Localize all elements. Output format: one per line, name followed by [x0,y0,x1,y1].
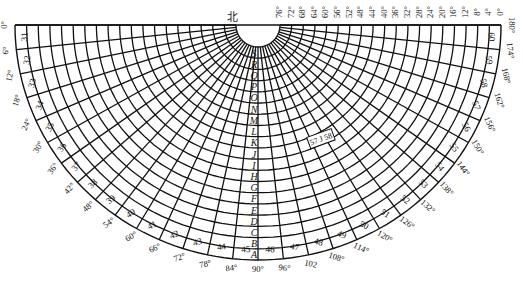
ring-letter-label: F [250,193,258,204]
latitude-label: 4° [483,8,493,16]
zone-number-label: 41 [146,219,159,232]
ring-letter-label: H [249,171,258,182]
longitude-label: 0° [0,21,9,29]
longitude-label: 84° [225,262,238,273]
latitude-label: 48° [355,6,365,18]
longitude-label: 96° [278,262,291,273]
zone-number-label: 50 [358,219,371,232]
latitude-label: 8° [472,8,482,16]
ring-letter-label: I [251,160,256,171]
latitude-label: 64° [309,6,319,18]
zone-number-label: 47 [289,241,300,252]
meridian-line [36,34,238,121]
ring-letter-label: D [249,216,258,227]
latitude-label: 20° [437,6,447,18]
zone-number-label: 55 [448,141,462,154]
ring-letter-label: K [250,137,259,148]
longitude-label: 90° [252,264,264,274]
latitude-label: 36° [390,6,400,18]
longitude-label: 66° [147,241,162,255]
longitude-label: 114° [352,240,371,256]
longitude-label: 126° [398,214,417,232]
latitude-label: 76° [274,6,284,18]
meridian-line [77,40,241,183]
grid-lines [15,25,501,260]
longitude-label: 102 [304,257,319,269]
zone-number-label: 59 [484,55,495,66]
latitude-label: 24° [425,6,435,18]
ring-letter-label: J [252,149,257,160]
zone-number-label: 42 [168,228,180,241]
latitude-label: 40° [379,6,389,18]
latitude-label: 44° [367,6,377,18]
longitude-label: 174° [505,42,517,59]
ring-letter-label: M [249,115,259,126]
ring-letter-label: N [250,104,259,115]
longitude-label: 60° [123,229,138,244]
longitude-label: 168° [500,67,513,85]
latitude-arc [236,25,280,47]
latitude-label: 16° [448,6,458,18]
longitude-label: 12° [3,69,15,83]
longitude-label: 72° [172,250,186,263]
latitude-label: 28° [414,6,424,18]
longitude-label: 18° [10,93,23,107]
zone-number-label: 43 [192,236,204,248]
ring-letter-label: L [250,126,257,137]
longitude-label: 150° [470,137,487,156]
meridian-line [273,41,421,199]
zone-number-label: 53 [417,177,431,191]
ring-letter-label: Q [250,70,258,81]
meridian-line [278,34,480,121]
zone-number-label: 38 [86,177,100,191]
longitude-label: 6° [0,46,11,55]
ring-letter-label: B [251,238,257,249]
zone-number-label: 45 [241,244,251,254]
latitude-label: 32° [402,6,412,18]
longitude-label: 138° [438,179,456,198]
latitude-label: 52° [344,6,354,18]
polar-zone-grid-diagram: SRQPONMLKJIHGFEDCBA313233343536373839404… [0,0,523,285]
ring-letter-label: C [251,227,258,238]
ring-letter-label: G [250,182,257,193]
ring-letter-label: R [250,59,257,70]
ring-letter-label: O [250,92,257,103]
zone-number-label: 52 [399,193,412,206]
longitude-label: 156° [482,115,498,134]
zone-number-label: 49 [336,228,348,241]
zone-number-label: 46 [265,244,275,254]
longitude-label: 162° [492,91,507,109]
ring-letter-label: E [250,205,257,216]
longitude-label: 24° [19,117,33,132]
meridian-line [263,47,309,255]
meridian-line [95,41,243,199]
longitude-label: 108° [327,250,345,265]
longitude-label: 54° [101,215,117,230]
meridian-line [159,45,249,240]
latitude-label: 68° [297,6,307,18]
meridian-line [207,47,253,255]
meridian-line [274,40,438,183]
longitude-label: 42° [62,180,77,196]
latitude-label: 12° [460,6,470,18]
zone-number-label: 32 [21,55,32,65]
longitude-label: 144° [455,159,473,178]
latitude-label: 60° [320,6,330,18]
ring-letter-label: P [250,81,257,92]
north-label: 北 [227,11,238,23]
longitude-label: 48° [80,199,96,214]
longitude-label: 30° [31,139,46,154]
ring-letter-label: S [252,48,257,59]
longitude-label: 180° [507,17,517,33]
zone-number-label: 60 [486,32,496,42]
latitude-label: 56° [332,6,342,18]
ring-letter-label: A [250,249,258,260]
longitude-label: 36° [45,161,60,177]
longitude-label: 120° [376,228,395,245]
latitude-label: 72° [286,6,296,18]
latitude-label: 0° [495,8,505,16]
zone-number-label: 48 [313,236,325,248]
zone-number-label: 31 [19,32,29,42]
zone-number-label: 54 [433,160,447,174]
longitude-label: 132° [419,197,438,215]
